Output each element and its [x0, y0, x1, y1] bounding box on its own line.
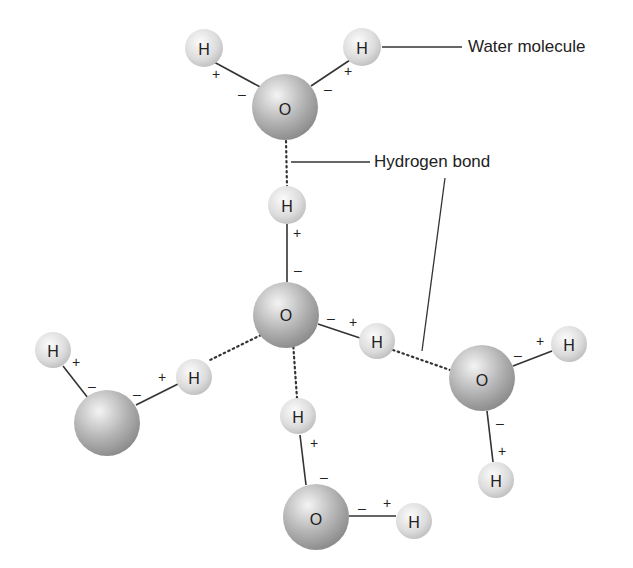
- bond-bottom-up: [300, 435, 306, 485]
- bond-left-top: [63, 366, 88, 398]
- molecule-left: H H: [35, 332, 212, 456]
- hydrogen-label: H: [371, 334, 383, 351]
- oxygen-label: O: [280, 307, 292, 324]
- negative-charge: –: [88, 378, 96, 394]
- negative-charge: –: [238, 86, 246, 102]
- positive-charge: +: [72, 354, 80, 370]
- bond-top-left: [214, 62, 262, 88]
- negative-charge: –: [496, 415, 504, 431]
- hydrogen-label: H: [356, 40, 368, 57]
- water-hydrogen-bond-diagram: O H H O H H H H O H: [0, 0, 633, 568]
- negative-charge: –: [327, 310, 335, 326]
- hbond-center-left: [208, 335, 261, 361]
- molecule-center: O H H: [253, 186, 395, 359]
- hydrogen-label: H: [198, 41, 210, 58]
- water-molecule-label: Water molecule: [468, 37, 585, 56]
- hbond-center-right: [393, 350, 450, 370]
- hydrogen-label: H: [281, 198, 293, 215]
- positive-charge: +: [212, 66, 220, 82]
- negative-charge: –: [133, 386, 141, 402]
- partial-charges: + – + – + – – + + – + – + – – + + – – +: [72, 63, 544, 516]
- bond-right-down: [487, 411, 493, 462]
- hbond-center-bottom: [293, 342, 297, 398]
- hydrogen-bonds: [208, 141, 450, 398]
- hydrogen-label: H: [563, 337, 575, 354]
- negative-charge: –: [294, 262, 302, 278]
- positive-charge: +: [158, 369, 166, 385]
- molecule-top: O H H: [185, 28, 381, 140]
- atoms: O H H O H H H H O H: [35, 28, 587, 550]
- positive-charge: +: [383, 495, 391, 511]
- positive-charge: +: [293, 225, 301, 241]
- negative-charge: –: [324, 81, 332, 97]
- negative-charge: –: [514, 347, 522, 363]
- oxygen-label: O: [279, 101, 291, 118]
- negative-charge: –: [320, 469, 328, 485]
- hydrogen-label: H: [292, 409, 304, 426]
- hydrogen-bond-label: Hydrogen bond: [374, 152, 490, 171]
- bond-left-right: [136, 384, 178, 405]
- hydrogen-label: H: [408, 514, 420, 531]
- negative-charge: –: [358, 500, 366, 516]
- positive-charge: +: [498, 443, 506, 459]
- oxygen-label: O: [476, 372, 488, 389]
- oxygen-atom: [74, 390, 140, 456]
- positive-charge: +: [536, 333, 544, 349]
- hydrogen-label: H: [47, 343, 59, 360]
- hydrogen-label: H: [490, 473, 502, 490]
- molecule-bottom: O H H: [280, 398, 432, 550]
- positive-charge: +: [349, 314, 357, 330]
- positive-charge: +: [310, 435, 318, 451]
- positive-charge: +: [344, 63, 352, 79]
- hydrogen-label: H: [188, 370, 200, 387]
- hydrogen-bond-pointer: [422, 178, 445, 351]
- hbond-top-center: [286, 141, 287, 186]
- oxygen-label: O: [310, 511, 322, 528]
